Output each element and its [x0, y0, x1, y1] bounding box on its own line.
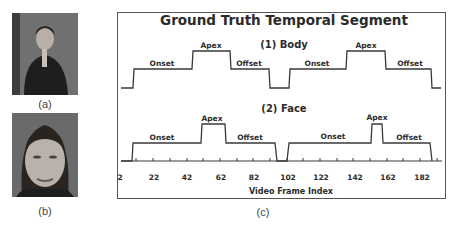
person-body-image — [12, 13, 78, 95]
x-tick-label: 22 — [148, 173, 158, 182]
x-axis-label: Video Frame Index — [248, 187, 333, 196]
x-tick-label: 62 — [215, 173, 225, 182]
face-series-title: (2) Face — [261, 103, 307, 114]
body-apex-label-2: Apex — [355, 41, 376, 50]
x-tick-label: 122 — [313, 173, 329, 182]
x-tick-label: 142 — [347, 173, 363, 182]
body-segment-line — [121, 51, 441, 88]
body-offset-label-1: Offset — [236, 59, 262, 68]
body-offset-label-2: Offset — [397, 59, 423, 68]
caption-b: (b) — [12, 205, 78, 217]
chart-title: Ground Truth Temporal Segment — [160, 12, 408, 28]
face-apex-label-2: Apex — [366, 113, 387, 122]
body-series-title: (1) Body — [260, 39, 308, 50]
face-apex-label-1: Apex — [201, 114, 222, 123]
face-offset-label-1: Offset — [237, 133, 263, 142]
person-face-image — [12, 113, 78, 197]
face-onset-label-2: Onset — [320, 132, 345, 141]
body-onset-label-1: Onset — [149, 59, 174, 68]
caption-c: (c) — [243, 206, 283, 218]
photo-face — [12, 113, 78, 197]
face-segment-line — [121, 124, 432, 161]
x-tick-label: 82 — [248, 173, 258, 182]
face-offset-label-2: Offset — [396, 133, 422, 142]
body-apex-label-1: Apex — [200, 41, 221, 50]
x-tick-label: 102 — [280, 173, 296, 182]
chart-canvas: Ground Truth Temporal Segment (1) Body O… — [117, 12, 446, 199]
body-onset-label-2: Onset — [304, 59, 329, 68]
temporal-segment-chart: Ground Truth Temporal Segment (1) Body O… — [117, 12, 446, 199]
x-tick-label: 2 — [117, 173, 122, 182]
photo-body — [12, 13, 78, 95]
x-tick-label: 162 — [380, 173, 396, 182]
caption-a: (a) — [12, 98, 78, 110]
x-tick-label: 42 — [181, 173, 191, 182]
x-tick-label: 182 — [414, 173, 430, 182]
face-onset-label-1: Onset — [149, 133, 174, 142]
